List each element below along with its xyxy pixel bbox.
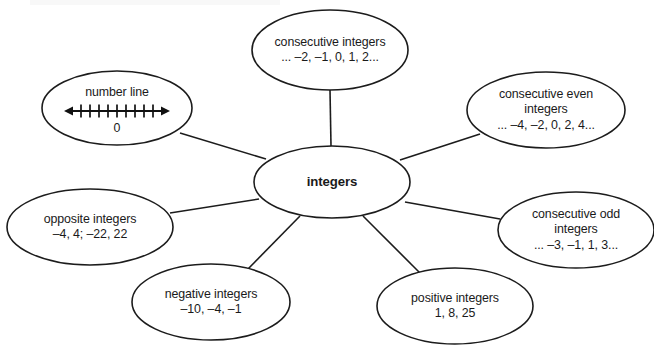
link-center-consecutive-even (400, 134, 480, 160)
node-label-consecutive-integers-line-1: ... –2, –1, 0, 1, 2... (281, 50, 379, 64)
link-center-consecutive-odd (405, 202, 500, 219)
node-label-number-line-line-0: number line (85, 85, 149, 99)
link-center-negative (247, 216, 300, 270)
node-label-consecutive-even-integers-line-2: ... –4, –2, 0, 2, 4... (497, 118, 595, 132)
node-positive-integers[interactable]: positive integers1, 8, 25 (377, 268, 533, 344)
node-label-positive-integers-line-1: 1, 8, 25 (435, 306, 476, 320)
node-consecutive-odd-integers[interactable]: consecutive oddintegers... –3, –1, 1, 3.… (498, 192, 654, 268)
concept-map-diagram: number line0consecutive integers... –2, … (0, 0, 654, 354)
concept-map-canvas: number line0consecutive integers... –2, … (0, 0, 654, 354)
node-label-consecutive-even-integers-line-1: integers (524, 102, 567, 116)
node-label-positive-integers-line-0: positive integers (411, 291, 499, 305)
node-consecutive-integers[interactable]: consecutive integers... –2, –1, 0, 1, 2.… (252, 10, 408, 90)
node-consecutive-even-integers[interactable]: consecutive evenintegers... –4, –2, 0, 2… (467, 72, 625, 148)
node-label-negative-integers-line-0: negative integers (165, 287, 258, 301)
nodes-layer: number line0consecutive integers... –2, … (7, 10, 654, 344)
node-label-negative-integers-line-1: –10, –4, –1 (181, 302, 242, 316)
node-label-integers: integers (307, 174, 358, 189)
node-integers[interactable]: integers (254, 146, 410, 218)
link-center-number-line (180, 133, 266, 159)
node-label-consecutive-integers-line-0: consecutive integers (275, 35, 386, 49)
link-center-positive (363, 216, 421, 274)
link-center-consecutive-integers (330, 90, 331, 146)
node-negative-integers[interactable]: negative integers–10, –4, –1 (132, 264, 290, 340)
node-label-opposite-integers-line-1: –4, 4; –22, 22 (53, 227, 128, 241)
node-label-consecutive-odd-integers-line-1: integers (554, 222, 597, 236)
node-label-number-line-zero: 0 (114, 121, 121, 135)
node-number-line[interactable]: number line0 (42, 71, 192, 145)
node-label-consecutive-even-integers-line-0: consecutive even (499, 87, 593, 101)
node-label-consecutive-odd-integers-line-0: consecutive odd (532, 207, 620, 221)
node-label-consecutive-odd-integers-line-2: ... –3, –1, 1, 3... (534, 238, 618, 252)
node-opposite-integers[interactable]: opposite integers–4, 4; –22, 22 (7, 189, 173, 265)
link-center-opposite (170, 199, 259, 213)
node-label-opposite-integers-line-0: opposite integers (44, 212, 137, 226)
